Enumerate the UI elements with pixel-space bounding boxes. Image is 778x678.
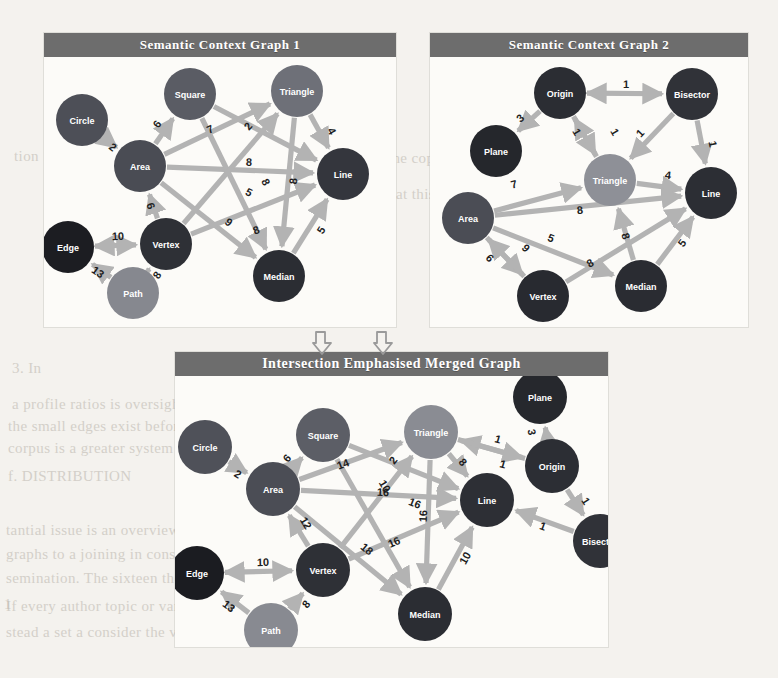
graph-node-label: Area — [458, 214, 479, 224]
edge-weight-label: 7 — [509, 177, 518, 190]
edge-weight-label: 1 — [707, 140, 720, 148]
graph-node-origin[interactable]: Origin — [525, 439, 579, 493]
edge-weight-label: 8 — [299, 598, 312, 610]
graph-node-label: Triangle — [414, 428, 449, 438]
graph-node-triangle[interactable]: Triangle — [271, 65, 323, 117]
graph-node-circle[interactable]: Circle — [56, 94, 108, 146]
edge-weight-label: 6 — [281, 452, 294, 465]
graph-node-label: Bisector — [582, 537, 608, 547]
edge-weight-label: 10 — [112, 230, 125, 242]
edge-weight-label: 9 — [223, 215, 235, 228]
graph-node-label: Square — [308, 431, 339, 441]
background-text-line: 3. In — [12, 360, 42, 377]
graph-node-line[interactable]: Line — [317, 148, 369, 200]
edge-weight-label: 14 — [335, 456, 351, 472]
graph-node-median[interactable]: Median — [398, 587, 452, 641]
graph-node-label: Median — [409, 610, 440, 620]
panel-title-graph1: Semantic Context Graph 1 — [44, 33, 396, 57]
graph-node-median[interactable]: Median — [615, 260, 667, 312]
graph-node-label: Origin — [539, 462, 566, 472]
graph-node-area[interactable]: Area — [442, 192, 494, 244]
graph-node-vertex[interactable]: Vertex — [140, 218, 192, 270]
graph-node-label: Area — [263, 485, 284, 495]
edge-weight-label: 5 — [675, 237, 688, 249]
graph-edge — [292, 458, 302, 469]
graph-node-label: Median — [263, 272, 294, 282]
edge-weight-label: 1 — [493, 432, 502, 445]
panel-body-graph2: OriginBisectorPlaneTriangleLineAreaVerte… — [430, 57, 748, 327]
edge-weight-label: 8 — [251, 223, 261, 236]
nodes-graph1: CircleSquareTriangleAreaLineEdgeVertexPa… — [44, 65, 369, 319]
graph-node-bisector[interactable]: Bisector — [573, 514, 608, 568]
graph-node-label: Vertex — [152, 240, 179, 250]
graph-node-vertex[interactable]: Vertex — [296, 543, 350, 597]
graph-node-triangle[interactable]: Triangle — [584, 154, 636, 206]
nodes-graph2: OriginBisectorPlaneTriangleLineAreaVerte… — [442, 67, 737, 322]
edge-weight-label: 4 — [664, 169, 672, 182]
graph-edge — [697, 121, 705, 164]
edge-weight-label: 5 — [314, 224, 327, 236]
graph-node-area[interactable]: Area — [114, 140, 166, 192]
graph-edge — [225, 571, 292, 573]
graph-node-label: Path — [261, 626, 281, 636]
graph-node-label: Area — [130, 162, 151, 172]
graph-node-label: Line — [702, 189, 721, 199]
graph-node-label: Vertex — [529, 292, 556, 302]
graph-node-label: Vertex — [309, 566, 336, 576]
graph-edge — [587, 93, 662, 94]
graph-node-path[interactable]: Path — [244, 603, 298, 647]
graph-node-label: Plane — [484, 147, 508, 157]
graph-node-circle[interactable]: Circle — [178, 420, 232, 474]
graph-node-label: Triangle — [280, 87, 315, 97]
edge-weight-label: 8 — [259, 177, 272, 188]
graph-node-vertex[interactable]: Vertex — [517, 270, 569, 322]
edge-weight-label: 6 — [484, 252, 497, 265]
graph-node-line[interactable]: Line — [685, 167, 737, 219]
edge-weight-label: 1 — [608, 126, 621, 137]
edge-weight-label: 8 — [246, 156, 253, 168]
graph-edge — [148, 269, 149, 271]
edge-weight-label: 8 — [576, 204, 583, 217]
edge-weight-label: 9 — [520, 242, 533, 255]
graph-node-area[interactable]: Area — [246, 462, 300, 516]
edge-weight-label: 3 — [526, 428, 539, 436]
graph-node-label: Circle — [192, 443, 217, 453]
edge-weight-label: 5 — [546, 231, 556, 244]
edge-weight-label: 1 — [498, 457, 507, 470]
graph-node-median[interactable]: Median — [253, 250, 305, 302]
graph-panel-graph1: Semantic Context Graph 1CircleSquareTria… — [44, 33, 396, 327]
graph-node-label: Plane — [528, 393, 552, 403]
graph-node-square[interactable]: Square — [164, 68, 216, 120]
graph-node-label: Edge — [186, 569, 208, 579]
graph-node-edge[interactable]: Edge — [44, 221, 94, 273]
graph-node-edge[interactable]: Edge — [175, 546, 224, 600]
graph-node-label: Path — [123, 289, 143, 299]
graph-panel-merged: Intersection Emphasised Merged GraphCirc… — [175, 352, 608, 647]
graph-edge — [637, 183, 681, 189]
graph-edge — [545, 428, 547, 439]
graph-node-line[interactable]: Line — [460, 473, 514, 527]
merge-arrow-right — [373, 330, 395, 356]
edge-weight-label: 8 — [287, 177, 300, 184]
graph-edge — [293, 199, 327, 253]
edge-weight-label: 5 — [244, 185, 255, 198]
graph-node-label: Median — [625, 282, 656, 292]
edge-weight-label: 1 — [623, 78, 629, 90]
graph-node-bisector[interactable]: Bisector — [666, 68, 718, 120]
graph-node-plane[interactable]: Plane — [513, 376, 567, 424]
graph-edge — [575, 119, 597, 157]
edge-weight-label: 6 — [150, 118, 163, 130]
edge-weight-label: 2 — [232, 467, 244, 480]
graph-node-label: Square — [175, 90, 206, 100]
graph-edge — [95, 245, 136, 246]
graph-panel-graph2: Semantic Context Graph 2OriginBisectorPl… — [430, 33, 748, 327]
chevron-down-icon — [374, 332, 392, 354]
graph-node-label: Line — [334, 170, 353, 180]
graph-node-origin[interactable]: Origin — [534, 67, 586, 119]
graph-node-label: Line — [478, 496, 497, 506]
graph-node-plane[interactable]: Plane — [470, 125, 522, 177]
graph-node-triangle[interactable]: Triangle — [404, 405, 458, 459]
edge-weight-label: 4 — [325, 125, 339, 137]
panel-body-graph1: CircleSquareTriangleAreaLineEdgeVertexPa… — [44, 57, 396, 327]
graph-node-square[interactable]: Square — [296, 408, 350, 462]
